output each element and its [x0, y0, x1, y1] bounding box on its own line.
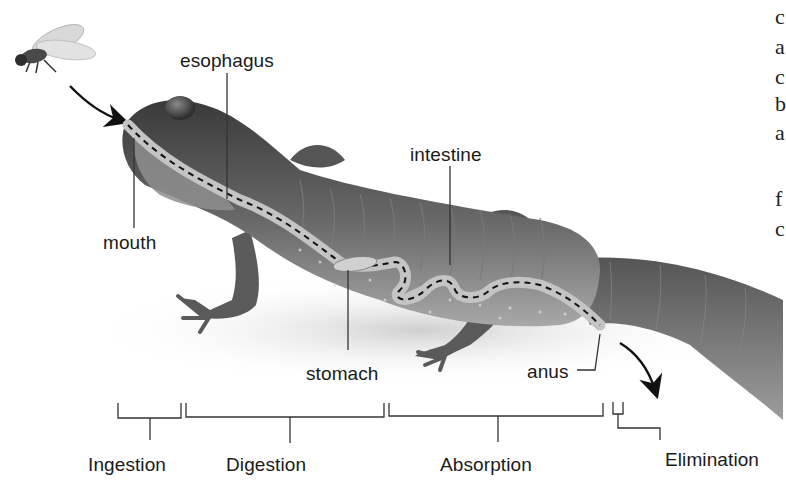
ingestion-bracket [118, 403, 181, 418]
digestion-bracket [186, 403, 384, 417]
label-digestion: Digestion [226, 455, 306, 474]
stage-brackets [118, 402, 660, 443]
fly-icon [15, 18, 97, 73]
absorption-bracket [389, 403, 603, 416]
label-anus: anus [527, 362, 569, 381]
side-char: a [775, 122, 785, 144]
side-char: c [775, 66, 785, 88]
label-absorption: Absorption [440, 455, 532, 474]
elimination-bracket [613, 402, 623, 414]
side-char: c [775, 6, 785, 28]
side-char: c [775, 218, 785, 240]
label-mouth: mouth [103, 233, 156, 252]
label-esophagus: esophagus [180, 51, 274, 70]
ingestion-arrow-icon [70, 86, 120, 120]
label-elimination: Elimination [665, 450, 759, 469]
side-char: a [775, 36, 785, 58]
label-intestine: intestine [410, 145, 482, 164]
side-char: f [775, 188, 782, 210]
label-stomach: stomach [306, 364, 379, 383]
label-ingestion: Ingestion [88, 455, 166, 474]
front-leg-far [290, 145, 345, 168]
salamander-eye [165, 96, 195, 120]
side-char: b [775, 93, 786, 115]
